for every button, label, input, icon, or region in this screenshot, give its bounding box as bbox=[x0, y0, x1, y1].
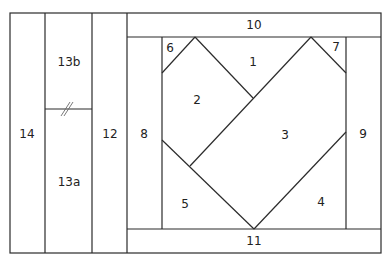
triangle-7-edge bbox=[311, 37, 346, 73]
quilt-pattern-diagram: 14 13b 13a 12 10 11 8 9 6 7 1 2 3 4 5 bbox=[0, 0, 389, 262]
label-12: 12 bbox=[102, 127, 117, 141]
label-3: 3 bbox=[281, 128, 289, 142]
label-5: 5 bbox=[181, 197, 189, 211]
label-7: 7 bbox=[332, 40, 340, 54]
label-8: 8 bbox=[140, 127, 148, 141]
label-4: 4 bbox=[317, 195, 325, 209]
label-11: 11 bbox=[246, 234, 261, 248]
label-1: 1 bbox=[249, 55, 257, 69]
label-9: 9 bbox=[359, 127, 367, 141]
label-6: 6 bbox=[166, 41, 174, 55]
label-13a: 13a bbox=[58, 175, 81, 189]
label-14: 14 bbox=[19, 127, 34, 141]
heart-left-lower-edge bbox=[162, 140, 254, 229]
label-2: 2 bbox=[193, 93, 201, 107]
label-13b: 13b bbox=[58, 55, 81, 69]
heart-left-lobe-edge bbox=[195, 37, 253, 98]
outer-border bbox=[10, 13, 381, 253]
label-10: 10 bbox=[246, 18, 261, 32]
heart-right-lower-edge bbox=[254, 132, 346, 229]
